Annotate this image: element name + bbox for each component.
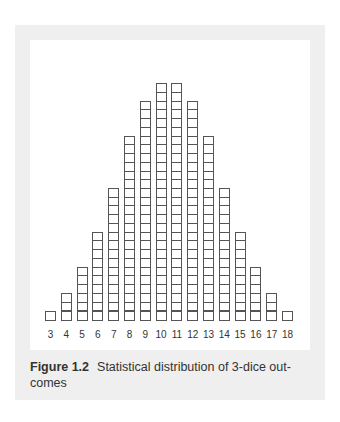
unit-box — [250, 311, 261, 321]
bar-7 — [108, 189, 119, 321]
unit-box — [187, 311, 198, 321]
figure-frame: 3456789101112131415161718 Figure 1.2Stat… — [15, 25, 325, 400]
unit-box — [250, 302, 261, 312]
plot: 3456789101112131415161718 — [30, 40, 310, 350]
bar-4 — [61, 294, 72, 321]
unit-box — [140, 302, 151, 312]
unit-box — [45, 311, 56, 321]
unit-box — [282, 311, 293, 321]
bar-9 — [140, 102, 151, 321]
unit-box — [203, 311, 214, 321]
unit-box — [108, 302, 119, 312]
figure-caption: Figure 1.2Statistical distribution of 3-… — [30, 359, 310, 391]
x-tick-label: 18 — [278, 329, 298, 340]
unit-box — [171, 311, 182, 321]
bar-14 — [219, 189, 230, 321]
bar-6 — [92, 233, 103, 321]
bar-10 — [156, 84, 167, 321]
unit-box — [171, 302, 182, 312]
bar-8 — [124, 137, 135, 321]
unit-box — [203, 302, 214, 312]
figure-label: Figure 1.2 — [30, 360, 89, 374]
unit-box — [77, 302, 88, 312]
bar-11 — [171, 84, 182, 321]
unit-box — [92, 311, 103, 321]
bar-3 — [45, 311, 56, 321]
unit-box — [219, 302, 230, 312]
unit-box — [61, 302, 72, 312]
unit-box — [187, 302, 198, 312]
unit-box — [219, 311, 230, 321]
bar-5 — [77, 268, 88, 321]
unit-box — [156, 302, 167, 312]
bar-16 — [250, 268, 261, 321]
unit-box — [235, 311, 246, 321]
bar-17 — [266, 294, 277, 321]
chart-area: 3456789101112131415161718 — [30, 40, 310, 350]
bar-12 — [187, 102, 198, 321]
unit-box — [266, 311, 277, 321]
bar-18 — [282, 311, 293, 321]
unit-box — [61, 311, 72, 321]
unit-box — [140, 311, 151, 321]
unit-box — [92, 302, 103, 312]
unit-box — [266, 302, 277, 312]
unit-box — [124, 302, 135, 312]
unit-box — [235, 302, 246, 312]
bar-13 — [203, 137, 214, 321]
unit-box — [77, 311, 88, 321]
unit-box — [156, 311, 167, 321]
unit-box — [108, 311, 119, 321]
bar-15 — [235, 233, 246, 321]
unit-box — [124, 311, 135, 321]
